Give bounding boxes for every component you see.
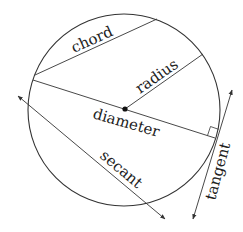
- center-point: [122, 106, 127, 111]
- secant-label: secant: [96, 146, 146, 192]
- radius-label: radius: [132, 55, 182, 97]
- tangent-label: tangent: [201, 141, 234, 202]
- circle-diagram: chord radius diameter secant tangent: [0, 0, 243, 232]
